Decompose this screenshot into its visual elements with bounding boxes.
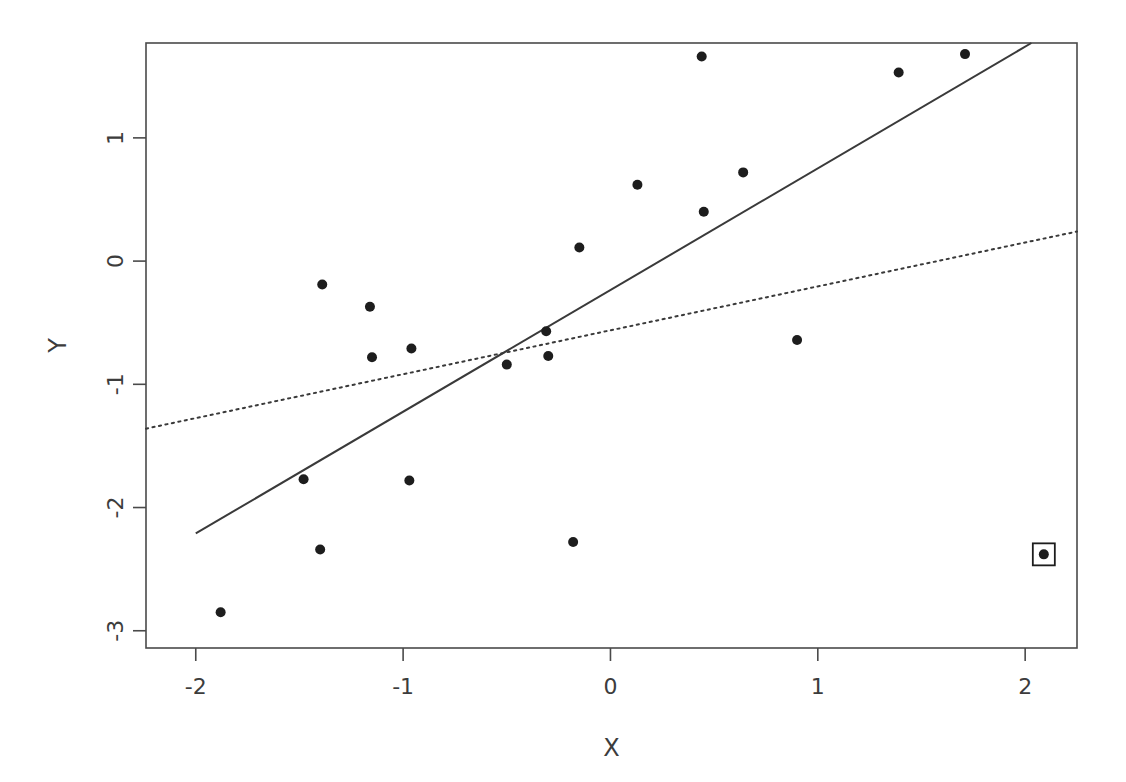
data-point <box>1039 549 1049 559</box>
x-axis-title: X <box>603 734 619 762</box>
plot-canvas: -2-1012 10-1-2-3 X Y <box>0 0 1126 782</box>
data-point <box>317 280 327 290</box>
y-tick-label: 0 <box>104 254 129 268</box>
y-tick-label: -2 <box>104 497 129 519</box>
data-point <box>699 207 709 217</box>
data-point <box>894 68 904 78</box>
data-point <box>404 475 414 485</box>
figure-background <box>0 0 1126 782</box>
y-tick-label: -1 <box>104 373 129 395</box>
x-tick-label: 2 <box>1018 674 1032 699</box>
data-point <box>367 352 377 362</box>
data-point <box>960 49 970 59</box>
data-point <box>365 302 375 312</box>
scatter-plot-figure: -2-1012 10-1-2-3 X Y <box>0 0 1126 782</box>
data-point <box>697 52 707 62</box>
x-tick-label: -2 <box>185 674 207 699</box>
data-point <box>216 607 226 617</box>
x-tick-label: 1 <box>811 674 825 699</box>
data-point <box>541 326 551 336</box>
data-point <box>792 335 802 345</box>
data-point <box>632 180 642 190</box>
data-point <box>502 360 512 370</box>
x-tick-label: 0 <box>603 674 617 699</box>
y-axis-title: Y <box>44 338 72 354</box>
data-point <box>543 351 553 361</box>
data-point <box>406 344 416 354</box>
x-tick-label: -1 <box>392 674 414 699</box>
y-tick-label: -3 <box>104 620 129 642</box>
data-point <box>299 474 309 484</box>
data-point <box>315 544 325 554</box>
y-tick-label: 1 <box>104 131 129 145</box>
data-point <box>568 537 578 547</box>
data-point <box>574 243 584 253</box>
data-point <box>738 167 748 177</box>
